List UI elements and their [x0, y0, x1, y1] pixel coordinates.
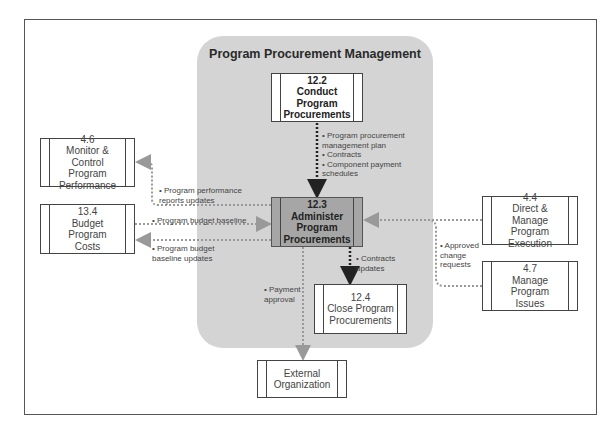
process-4-4-direct-manage-program-execution: 4.4 Direct & Manage Program Execution — [482, 196, 578, 245]
flow-label-from-4-4-4-7: • Approved change requests — [440, 241, 479, 270]
process-number: 4.6 — [81, 134, 95, 146]
flow-label-from-13-4: • Program budget baseline — [152, 216, 246, 226]
process-number: 4.7 — [523, 263, 537, 275]
process-number: 12.4 — [351, 292, 370, 304]
process-number: 12.3 — [307, 199, 326, 211]
process-number: 13.4 — [78, 206, 97, 218]
flow-label-from-12-2: • Program procurement management plan • … — [322, 131, 405, 179]
process-12-4-close-program-procurements: 12.4 Close Program Procurements — [314, 284, 407, 334]
process-4-7-manage-program-issues: 4.7 Manage Program Issues — [482, 261, 578, 311]
process-4-6-monitor-control-program-performance: 4.6 Monitor & Control Program Performanc… — [40, 138, 135, 187]
flow-label-to-13-4: • Program budget baseline updates — [152, 244, 214, 263]
process-name: Administer Program Procurements — [271, 211, 362, 246]
process-12-3-administer-program-procurements: 12.3 Administer Program Procurements — [271, 197, 363, 247]
process-12-2-conduct-program-procurements: 12.2 Conduct Program Procurements — [271, 73, 363, 122]
external-organization: External Organization — [257, 360, 347, 398]
process-number: 4.4 — [523, 192, 537, 204]
process-name: External Organization — [262, 368, 343, 391]
process-name: Budget Program Costs — [41, 218, 134, 253]
process-name: Monitor & Control Program Performance — [41, 145, 134, 191]
process-name: Direct & Manage Program Execution — [483, 203, 577, 249]
process-name: Manage Program Issues — [483, 275, 577, 310]
process-13-4-budget-program-costs: 13.4 Budget Program Costs — [40, 204, 135, 254]
process-name: Close Program Procurements — [315, 303, 406, 326]
flow-label-to-4-6: • Program performance reports updates — [159, 186, 242, 205]
flow-label-to-external: • Payment approval — [264, 285, 301, 304]
process-number: 12.2 — [307, 75, 326, 87]
process-name: Conduct Program Procurements — [271, 86, 362, 121]
flow-label-to-12-4: • Contracts updates — [356, 254, 395, 273]
